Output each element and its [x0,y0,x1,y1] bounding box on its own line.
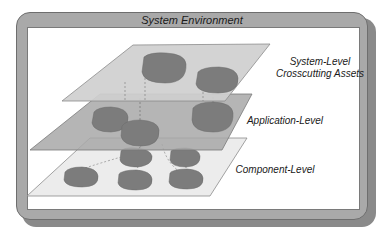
component-blob-5 [169,169,203,189]
application-blob-2 [121,120,159,146]
component-blob-1 [120,148,152,167]
application-level-label: Application-Level [240,115,330,127]
application-blob-3 [192,102,233,132]
component-blob-3 [64,167,98,187]
component-blob-2 [170,148,200,167]
system-level-label-line1: System-Level [270,56,370,68]
system-blob-1 [142,53,186,83]
system-level-label-line2: Crosscutting Assets [270,68,370,80]
component-blob-4 [118,170,152,190]
system-blob-2 [196,67,238,93]
system-level-label: System-Level Crosscutting Assets [270,56,370,80]
diagram-canvas: System Environment [0,0,390,239]
component-level-label: Component-Level [230,164,320,176]
layer-stack [0,0,390,239]
